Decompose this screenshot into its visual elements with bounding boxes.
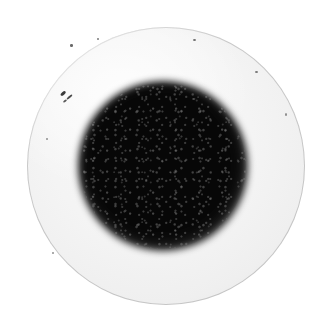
agar-speck	[97, 38, 99, 40]
image-caption: Grayscale photograph of a Petri dish con…	[0, 0, 1, 1]
agar-speck	[52, 252, 54, 254]
petri-dish-photograph: Grayscale photograph of a Petri dish con…	[0, 0, 329, 330]
petri-dish-body	[27, 27, 305, 305]
agar-speck	[70, 44, 73, 47]
